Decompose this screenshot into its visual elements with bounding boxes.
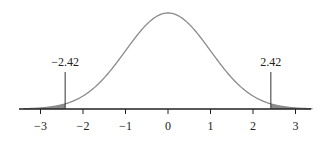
normal-distribution-chart: −3−2−10123 −2.422.42: [0, 0, 325, 143]
x-axis-ticks: −3−2−10123: [34, 109, 298, 133]
critical-value-markers: −2.422.42: [51, 55, 281, 109]
x-tick-label: 3: [293, 119, 299, 133]
chart-canvas: −3−2−10123 −2.422.42: [0, 0, 325, 143]
x-tick-label: −2: [77, 119, 90, 133]
critical-value-label: −2.42: [51, 55, 79, 69]
x-tick-label: −1: [119, 119, 132, 133]
x-tick-label: 1: [208, 119, 214, 133]
critical-value-label: 2.42: [260, 55, 281, 69]
x-tick-label: 2: [250, 119, 256, 133]
x-tick-label: 0: [165, 119, 171, 133]
x-tick-label: −3: [34, 119, 47, 133]
